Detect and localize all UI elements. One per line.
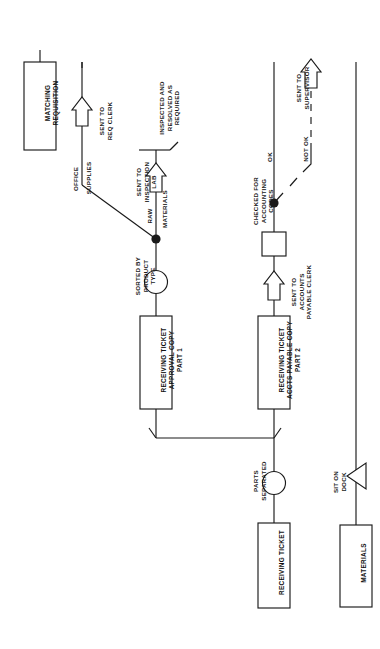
label-inspected-and-resolved: INSPECTED AND RESOLVED AS REQUIRED	[158, 72, 181, 144]
label-supplies: SUPPLIES	[85, 156, 93, 200]
label-sent-to-supervisor: SENT TO SUPERVISOR	[295, 64, 310, 112]
label-checked-for-accounting-codes: CHECKED FOR ACCOUNTING CODES	[252, 174, 275, 228]
split-tick-right	[274, 428, 281, 438]
label-matching-requisition: MATCHING REQUISITION	[44, 60, 60, 146]
decision-tick-a	[274, 193, 283, 203]
label-office: OFFICE	[72, 162, 80, 196]
square-checked-for-accounting-codes	[262, 232, 286, 256]
label-sent-to-req-clerk: SENT TO REQ CLERK	[98, 98, 113, 144]
label-parts-separated: PARTS SEPARATED	[252, 457, 267, 505]
label-receiving-ticket-accts-payable-copy: RECEIVING TICKET ACCTS PAYABLE COPY PART…	[278, 315, 302, 405]
label-raw: RAW	[146, 201, 154, 231]
label-sent-to-accounts-payable-clerk: SENT TO ACCOUNTS PAYABLE CLERK	[290, 264, 313, 320]
label-receiving-ticket: RECEIVING TICKET	[278, 521, 286, 604]
split-tick-left	[149, 428, 156, 438]
label-materials: MATERIALS	[360, 523, 368, 603]
label-sit-on-dock: SIT ON DOCK	[332, 464, 347, 500]
label-materials-flow: MATERIALS	[161, 185, 169, 233]
label-ok: OK	[266, 147, 274, 167]
decision-tick-b	[290, 178, 297, 186]
arrow-sent-to-accounts-payable-clerk	[264, 271, 284, 300]
arrow-sent-to-req-clerk	[72, 97, 92, 126]
label-sorted-by-product-type: SORTED BY PRODUCT TYPE	[134, 248, 157, 304]
flowchart-canvas: MATCHING REQUISITION RECEIVING TICKET AP…	[0, 0, 380, 649]
label-receiving-ticket-approval-copy: RECEIVING TICKET APPROVAL COPY PART 1	[160, 315, 184, 405]
label-not-ok: NOT OK	[302, 132, 310, 166]
